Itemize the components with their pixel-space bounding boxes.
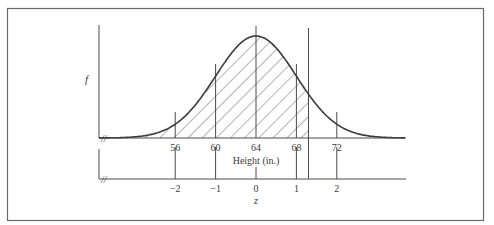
z-tick-labels: −2−1012 [170,183,339,194]
height-tick-labels: 5660646872 [170,142,342,153]
shaded-area [99,36,309,138]
x-axis-label: Height (in.) [233,155,280,167]
z-tick-label: −2 [170,183,181,194]
z-tick-label: −1 [210,183,221,194]
height-tick-label: 56 [170,142,180,153]
height-tick-label: 60 [211,142,221,153]
height-tick-label: 72 [332,142,342,153]
height-tick-label: 64 [251,142,261,153]
y-axis-label: f [85,73,90,85]
z-tick-label: 0 [254,183,259,194]
height-tick-label: 68 [291,142,301,153]
normal-distribution-figure: // // f Height (in.) z 5660646872 −2−101… [0,0,494,225]
z-tick-label: 1 [294,183,299,194]
z-axis-label: z [253,195,258,206]
chart-svg: // // f Height (in.) z 5660646872 −2−101… [0,0,494,225]
z-tick-label: 2 [334,183,339,194]
